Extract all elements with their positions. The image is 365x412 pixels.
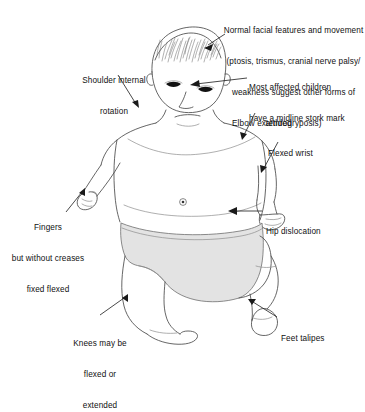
neck-left xyxy=(156,110,166,123)
annotation-fingers-line-2: but without creases xyxy=(4,254,92,264)
head-group xyxy=(147,27,231,126)
annotation-feet-line-1: Feet talipes xyxy=(281,334,361,344)
diaper-group xyxy=(121,223,264,302)
right-eye xyxy=(198,87,213,92)
left-arm-inner xyxy=(97,163,120,196)
annotation-shoulder-line-2: rotation xyxy=(78,107,150,117)
arrowhead-stork-mark xyxy=(190,80,200,87)
arrowhead-hip xyxy=(228,207,237,215)
annotation-knees-line-1: Knees may be xyxy=(60,339,140,349)
annotation-fingers-line-1: Fingers xyxy=(4,223,92,233)
right-leg-lower-outer xyxy=(267,256,278,309)
leader-feet xyxy=(253,302,277,317)
abdomen-fold xyxy=(124,203,261,216)
annotation-knees-line-3: extended xyxy=(60,401,140,411)
annotation-knees-line-2: flexed or xyxy=(60,370,140,380)
annotation-hip-line-1: Hip dislocation xyxy=(266,227,356,237)
right-arm-inner xyxy=(257,166,259,200)
mouth xyxy=(175,115,200,117)
annotation-wrist-line-1: Flexed wrist xyxy=(268,149,348,159)
arrowhead-feet xyxy=(248,299,256,305)
leader-knees xyxy=(100,298,124,315)
trunk-left-side xyxy=(114,140,120,222)
annotation-shoulder-line-1: Shoulder internal xyxy=(78,76,150,86)
right-ankle-crease xyxy=(253,317,272,319)
navel-center xyxy=(182,201,185,204)
right-leg-lower-inner xyxy=(250,294,252,320)
right-foot xyxy=(251,308,277,335)
annotation-stork-mark-line-1: Most affected children xyxy=(249,83,365,93)
annotation-fingers-line-3: fixed flexed xyxy=(4,285,92,295)
annotation-flexed-wrist: Flexed wrist xyxy=(268,128,348,180)
diaper xyxy=(121,223,264,302)
annotation-knees: Knees may be flexed or extended xyxy=(60,318,140,412)
annotation-fingers: Fingers but without creases fixed flexed xyxy=(4,202,92,316)
annotation-facial-features-line-1: Normal facial features and movement xyxy=(222,26,365,36)
chin-crease xyxy=(177,124,199,126)
left-eye xyxy=(166,82,181,87)
nose xyxy=(179,92,193,109)
annotation-shoulder-internal-rotation: Shoulder internal rotation xyxy=(78,55,150,138)
left-foot xyxy=(147,331,198,344)
annotation-hip-dislocation: Hip dislocation xyxy=(266,206,356,258)
left-ankle-crease xyxy=(150,330,177,333)
annotation-feet-talipes: Feet talipes xyxy=(281,313,361,365)
